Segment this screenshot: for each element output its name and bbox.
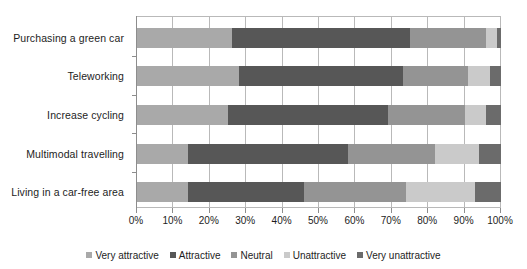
tick-mark-100	[500, 208, 501, 213]
tick-mark-0	[136, 208, 137, 213]
value-axis: 0%10%20%30%40%50%60%70%80%90%100%	[136, 208, 500, 234]
tick-label-90: 90%	[454, 215, 474, 226]
bar-segment	[304, 182, 406, 202]
tick-label-100: 100%	[487, 215, 513, 226]
category-label-1: Teleworking	[67, 66, 124, 86]
bar-segment	[137, 66, 239, 86]
legend-label: Unattractive	[293, 250, 346, 261]
bar-segment	[490, 66, 501, 86]
tick-mark-60	[354, 208, 355, 213]
bar-segment	[388, 105, 464, 125]
bar-row	[137, 28, 501, 48]
legend-item[interactable]: Very attractive	[86, 250, 158, 261]
tick-mark-90	[464, 208, 465, 213]
bar-segment	[468, 66, 490, 86]
bar-segment	[475, 182, 500, 202]
chart-legend: Very attractiveAttractiveNeutralUnattrac…	[0, 246, 527, 264]
category-tick-3	[132, 172, 137, 173]
bar-segment	[410, 28, 486, 48]
bar-row	[137, 144, 501, 164]
bar-segment	[137, 105, 228, 125]
tick-mark-70	[391, 208, 392, 213]
plot-area	[136, 16, 501, 208]
bar-segment	[188, 144, 348, 164]
tick-label-60: 60%	[344, 215, 364, 226]
category-label-4: Living in a car-free area	[11, 182, 124, 202]
legend-item[interactable]: Unattractive	[284, 250, 346, 261]
category-label-2: Increase cycling	[47, 105, 124, 125]
legend-swatch-icon	[357, 252, 363, 258]
tick-label-20: 20%	[199, 215, 219, 226]
legend-label: Very unattractive	[366, 250, 440, 261]
legend-swatch-icon	[170, 252, 176, 258]
bar-segment	[406, 182, 475, 202]
tick-mark-50	[318, 208, 319, 213]
bar-segment	[137, 28, 232, 48]
tick-label-40: 40%	[272, 215, 292, 226]
bar-segment	[486, 28, 497, 48]
bar-segment	[435, 144, 479, 164]
tick-label-30: 30%	[235, 215, 255, 226]
legend-item[interactable]: Attractive	[170, 250, 221, 261]
bar-segment	[465, 105, 487, 125]
bar-segment	[137, 182, 188, 202]
bar-row	[137, 182, 501, 202]
tick-label-80: 80%	[417, 215, 437, 226]
category-label-3: Multimodal travelling	[26, 144, 124, 164]
bar-segment	[403, 66, 469, 86]
legend-label: Very attractive	[95, 250, 158, 261]
bar-segment	[188, 182, 304, 202]
bar-row	[137, 66, 501, 86]
tick-label-10: 10%	[162, 215, 182, 226]
tick-mark-40	[282, 208, 283, 213]
category-tick-1	[132, 95, 137, 96]
tick-mark-80	[427, 208, 428, 213]
tick-mark-10	[172, 208, 173, 213]
tick-label-0: 0%	[129, 215, 143, 226]
bar-segment	[479, 144, 501, 164]
category-label-0: Purchasing a green car	[13, 28, 124, 48]
bar-segment	[228, 105, 388, 125]
bar-segment	[239, 66, 403, 86]
bar-segment	[232, 28, 410, 48]
tick-label-70: 70%	[381, 215, 401, 226]
legend-swatch-icon	[231, 252, 237, 258]
bar-segment	[497, 28, 501, 48]
legend-item[interactable]: Very unattractive	[357, 250, 440, 261]
tick-mark-30	[245, 208, 246, 213]
tick-mark-20	[209, 208, 210, 213]
bar-segment	[137, 144, 188, 164]
legend-label: Attractive	[179, 250, 221, 261]
legend-swatch-icon	[284, 252, 290, 258]
bar-segment	[486, 105, 501, 125]
stacked-bar-chart: Purchasing a green car Teleworking Incre…	[0, 0, 527, 269]
tick-label-50: 50%	[308, 215, 328, 226]
category-tick-2	[132, 133, 137, 134]
category-tick-0	[132, 56, 137, 57]
legend-swatch-icon	[86, 252, 92, 258]
legend-label: Neutral	[240, 250, 272, 261]
bar-segment	[348, 144, 435, 164]
bar-row	[137, 105, 501, 125]
legend-item[interactable]: Neutral	[231, 250, 272, 261]
category-axis-labels: Purchasing a green car Teleworking Incre…	[0, 16, 130, 208]
